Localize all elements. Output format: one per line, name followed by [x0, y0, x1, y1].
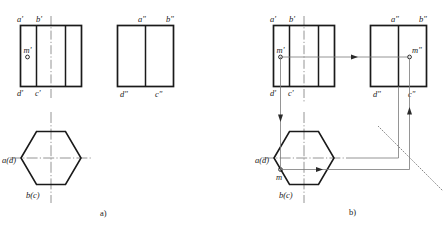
- label-d-double-prime: d": [373, 89, 381, 99]
- label-d-prime: d': [17, 88, 23, 98]
- label-b-double-prime: b": [419, 14, 427, 24]
- label-c-prime: c': [288, 88, 294, 98]
- panel-a-caption: a): [100, 208, 107, 218]
- label-m-double-prime: m": [412, 45, 422, 55]
- label-b-prime: b': [289, 14, 295, 24]
- background: [0, 0, 446, 230]
- label-a-d: a(d): [255, 155, 269, 165]
- label-c-double-prime: c": [155, 89, 163, 99]
- label-b-double-prime: b": [166, 14, 174, 24]
- label-b-c: b(c): [279, 190, 293, 200]
- orthographic-projection-figure: m' a' b' d' c' a" b" d" c" a(d) b(c) a): [0, 0, 446, 230]
- label-b-c: b(c): [26, 190, 40, 200]
- label-b-prime: b': [36, 14, 42, 24]
- label-a-d: a(d): [2, 155, 16, 165]
- label-m-prime: m': [24, 45, 32, 55]
- label-a-prime: a': [17, 14, 23, 24]
- figure-canvas: m' a' b' d' c' a" b" d" c" a(d) b(c) a): [0, 0, 446, 230]
- label-c-prime: c': [35, 88, 41, 98]
- label-m: m: [276, 172, 282, 182]
- label-d-double-prime: d": [120, 89, 128, 99]
- panel-b-caption: b): [349, 207, 356, 217]
- label-d-prime: d': [270, 88, 276, 98]
- label-a-prime: a': [270, 14, 276, 24]
- label-a-double-prime: a": [138, 14, 146, 24]
- label-a-double-prime: a": [391, 14, 399, 24]
- label-m-prime: m': [277, 45, 285, 55]
